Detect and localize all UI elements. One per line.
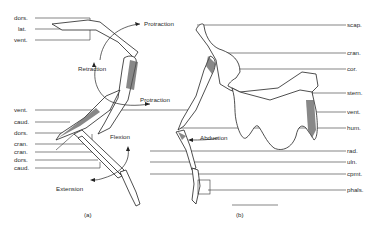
label-retraction: Retraction (78, 65, 107, 72)
label-protraction-mid: Protraction (140, 96, 170, 103)
label-cran-b: cran. (347, 49, 361, 56)
hand-a (120, 170, 140, 206)
label-extension: Extension (56, 185, 84, 192)
label-caud-2: caud. (14, 164, 29, 171)
label-cran: cran. (14, 140, 28, 147)
caption-a: (a) (84, 211, 92, 218)
label-dors-3: dors. (14, 156, 28, 163)
label-vent: vent. (14, 36, 28, 43)
label-dors-2: dors. (14, 129, 28, 136)
label-vent-b: vent. (347, 108, 361, 115)
label-scap: scap. (347, 21, 362, 28)
scapula-a (52, 20, 138, 58)
label-hum: hum. (347, 124, 361, 131)
label-protraction-top: Protraction (144, 20, 174, 27)
hand-b (192, 168, 200, 204)
label-caud: caud. (14, 118, 29, 125)
label-cor: cor. (347, 65, 357, 72)
label-phals: phals. (347, 186, 364, 193)
anatomy-diagram: dors. lat. vent. vent. caud. dors. cran.… (0, 0, 377, 232)
label-uln: uln. (347, 158, 357, 165)
label-abduction: Abduction (200, 134, 228, 141)
label-cran-2: cran. (14, 148, 28, 155)
label-cpmt: cpmt. (347, 170, 362, 177)
label-dors: dors. (14, 14, 28, 21)
caption-b: (b) (236, 211, 244, 218)
label-vent-2: vent. (14, 106, 28, 113)
label-lat: lat. (18, 25, 27, 32)
label-stern: stern. (347, 89, 363, 96)
label-flexion: Flexion (110, 133, 131, 140)
label-rad: rad. (347, 147, 358, 154)
